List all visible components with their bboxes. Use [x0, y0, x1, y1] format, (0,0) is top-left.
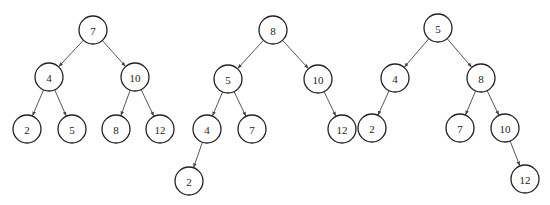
edge-10-to-12: [510, 141, 520, 166]
tree-node-10: 10: [121, 63, 149, 91]
tree-node-5: 5: [424, 14, 452, 42]
node-label: 8: [270, 25, 276, 37]
edge-8-to-7: [466, 91, 476, 115]
node-label: 2: [24, 124, 30, 136]
tree-node-8: 8: [467, 64, 495, 92]
tree-node-7: 7: [79, 16, 107, 44]
node-label: 8: [113, 124, 119, 136]
bst-diagram-canvas: 741025812851047122548271012: [0, 0, 550, 205]
tree-node-8: 8: [102, 115, 130, 143]
edge-10-to-12: [141, 90, 154, 116]
node-label: 12: [520, 174, 531, 186]
edge-5-to-4: [213, 92, 223, 116]
tree-node-12: 12: [146, 115, 174, 143]
tree-node-7: 7: [446, 114, 474, 142]
node-label: 5: [69, 124, 75, 136]
edge-7-to-4: [59, 40, 84, 66]
node-label: 4: [392, 73, 398, 85]
tree-1: 741025812: [13, 16, 174, 143]
node-label: 2: [186, 176, 192, 188]
tree-node-12: 12: [511, 165, 539, 193]
tree-node-2: 2: [358, 114, 386, 142]
edge-10-to-8: [121, 90, 130, 115]
tree-node-4: 4: [381, 64, 409, 92]
tree-node-10: 10: [304, 65, 332, 93]
node-label: 12: [155, 124, 166, 136]
node-label: 7: [457, 123, 463, 135]
edge-4-to-2: [194, 142, 203, 167]
tree-3-edges: [378, 39, 520, 166]
edge-4-to-2: [33, 90, 44, 116]
node-label: 12: [337, 124, 348, 136]
node-label: 10: [500, 123, 512, 135]
node-label: 2: [369, 123, 375, 135]
edge-5-to-4: [405, 39, 429, 67]
edge-7-to-10: [102, 40, 125, 66]
node-label: 4: [204, 124, 210, 136]
tree-node-2: 2: [175, 167, 203, 195]
tree-node-8: 8: [259, 16, 287, 44]
tree-node-4: 4: [193, 115, 221, 143]
node-label: 7: [249, 124, 255, 136]
edge-4-to-2: [378, 91, 389, 115]
edge-8-to-10: [487, 91, 499, 115]
tree-node-2: 2: [13, 115, 41, 143]
tree-node-5: 5: [214, 65, 242, 93]
edge-5-to-7: [234, 92, 246, 116]
edge-10-to-12: [324, 92, 336, 116]
tree-node-7: 7: [238, 115, 266, 143]
edge-4-to-5: [55, 90, 66, 116]
node-label: 5: [225, 74, 231, 86]
tree-node-4: 4: [35, 63, 63, 91]
tree-node-10: 10: [491, 114, 519, 142]
edge-8-to-10: [283, 40, 309, 68]
tree-2: 851047122: [175, 16, 356, 195]
node-label: 5: [435, 23, 441, 35]
nodes-layer: 741025812851047122548271012: [13, 14, 539, 195]
node-label: 10: [313, 74, 325, 86]
node-label: 7: [90, 25, 96, 37]
node-label: 8: [478, 73, 484, 85]
edges-layer: [33, 39, 520, 168]
tree-node-12: 12: [328, 115, 356, 143]
node-label: 10: [130, 72, 142, 84]
tree-node-5: 5: [58, 115, 86, 143]
node-label: 4: [46, 72, 52, 84]
edge-8-to-5: [238, 40, 264, 68]
tree-2-edges: [194, 40, 336, 167]
edge-5-to-8: [447, 39, 471, 67]
